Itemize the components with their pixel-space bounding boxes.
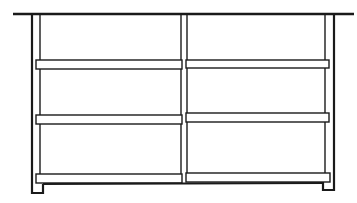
shelf-1-right (186, 60, 329, 68)
shelf-2-right (186, 113, 329, 122)
shelf-1-left (36, 60, 182, 69)
shelf-2-left (36, 115, 182, 124)
shelf-3-left (36, 174, 182, 183)
shelf-3-right (186, 173, 330, 182)
shelving-unit-drawing (0, 0, 357, 203)
left-post (32, 15, 43, 193)
base-edge (43, 183, 323, 184)
